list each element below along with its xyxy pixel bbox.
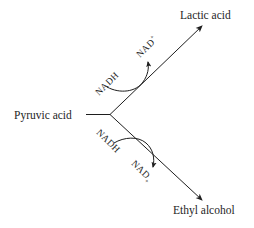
upper-nad-plus-label: NAD+ xyxy=(133,33,160,60)
upper-nadh-label: NADH xyxy=(93,70,120,97)
svg-text:NAD+: NAD+ xyxy=(128,158,155,185)
lower-nad-plus-label: NAD+ xyxy=(128,158,155,185)
fermentation-pathway-diagram: Pyruvic acid Lactic acid Ethyl alcohol N… xyxy=(0,0,254,228)
upper-nad-text: NAD xyxy=(134,37,156,59)
svg-text:NAD+: NAD+ xyxy=(133,33,160,60)
pyruvic-acid-label: Pyruvic acid xyxy=(14,109,72,122)
lower-branch-arrow xyxy=(110,115,202,201)
ethyl-alcohol-label: Ethyl alcohol xyxy=(173,204,235,217)
upper-branch-arrow xyxy=(110,26,202,115)
lactic-acid-label: Lactic acid xyxy=(180,9,231,21)
